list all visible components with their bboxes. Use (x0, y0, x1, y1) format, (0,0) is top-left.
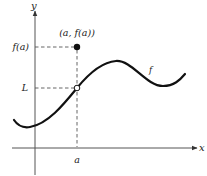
limit-label: L (21, 82, 28, 93)
y-axis-label: y (30, 0, 37, 11)
a-label: a (74, 154, 80, 165)
f-of-a-label: f(a) (11, 41, 29, 52)
point-label: (a, f(a)) (59, 27, 95, 38)
open-point (74, 85, 80, 91)
limit-diagram: x y (a, f(a)) f(a) L a f (0, 0, 207, 176)
function-label: f (148, 65, 154, 75)
x-axis-label: x (199, 142, 205, 153)
function-curve (14, 61, 185, 127)
filled-point (74, 44, 80, 50)
